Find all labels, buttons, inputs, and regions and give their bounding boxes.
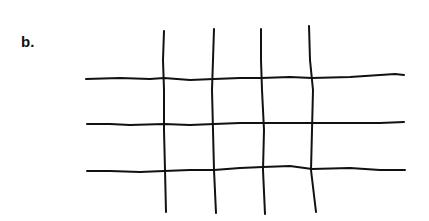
vertical-line-v4 [309, 26, 316, 212]
horizontal-line-h1 [86, 74, 404, 80]
grid-diagram: b. [0, 0, 429, 221]
vertical-line-v3 [261, 29, 265, 214]
horizontal-line-h2 [87, 122, 404, 125]
vertical-line-v1 [163, 31, 166, 212]
vertical-line-v2 [212, 29, 216, 213]
grid-lines [0, 0, 429, 221]
horizontal-line-h3 [87, 166, 405, 172]
